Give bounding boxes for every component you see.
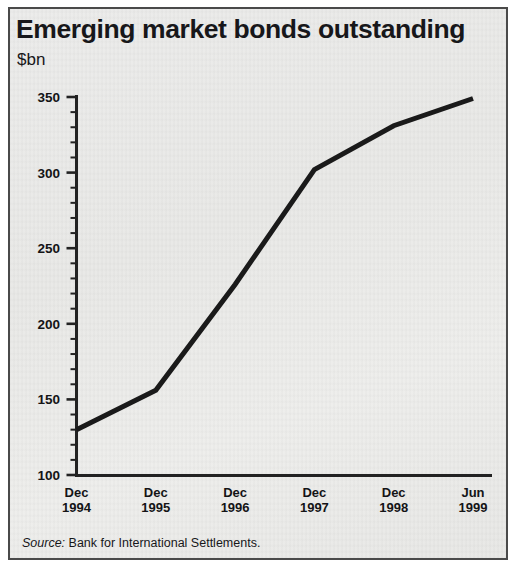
x-axis-tick-label: Dec1996 <box>200 486 270 516</box>
x-axis-tick-label-month: Dec <box>121 486 191 501</box>
y-axis-tick-label: 100 <box>16 468 60 483</box>
y-axis-tick-label: 350 <box>16 90 60 105</box>
y-axis-tick-label: 250 <box>16 241 60 256</box>
y-axis-tick-label: 150 <box>16 392 60 407</box>
x-axis-tick-label-year: 1998 <box>359 501 429 516</box>
y-axis-tick-label: 200 <box>16 316 60 331</box>
source-note-label: Source: <box>22 536 65 550</box>
x-axis-tick-label-year: 1994 <box>42 501 112 516</box>
source-note: Source: Bank for International Settlemen… <box>22 536 260 550</box>
chart-unit-label: $bn <box>17 50 45 70</box>
x-axis-tick-label: Dec1997 <box>279 486 349 516</box>
chart-title: Emerging market bonds outstanding <box>16 14 465 45</box>
x-axis-tick-label-year: 1995 <box>121 501 191 516</box>
x-axis-tick-label: Dec1995 <box>121 486 191 516</box>
x-axis-tick-label: Dec1998 <box>359 486 429 516</box>
x-axis-tick-label-month: Jun <box>438 486 508 501</box>
x-axis-tick-label-year: 1999 <box>438 501 508 516</box>
x-axis-tick-label-month: Dec <box>279 486 349 501</box>
chart-figure: Emerging market bonds outstanding $bn 10… <box>0 0 525 585</box>
x-axis-tick-label-year: 1996 <box>200 501 270 516</box>
x-axis-tick-label-year: 1997 <box>279 501 349 516</box>
x-axis-tick-label-month: Dec <box>200 486 270 501</box>
x-axis-tick-label: Jun1999 <box>438 486 508 516</box>
chart-panel <box>8 7 508 560</box>
x-axis-tick-label-month: Dec <box>359 486 429 501</box>
y-axis-tick-label: 300 <box>16 165 60 180</box>
source-note-text: Bank for International Settlements. <box>69 536 261 550</box>
x-axis-tick-label: Dec1994 <box>42 486 112 516</box>
x-axis-tick-label-month: Dec <box>42 486 112 501</box>
